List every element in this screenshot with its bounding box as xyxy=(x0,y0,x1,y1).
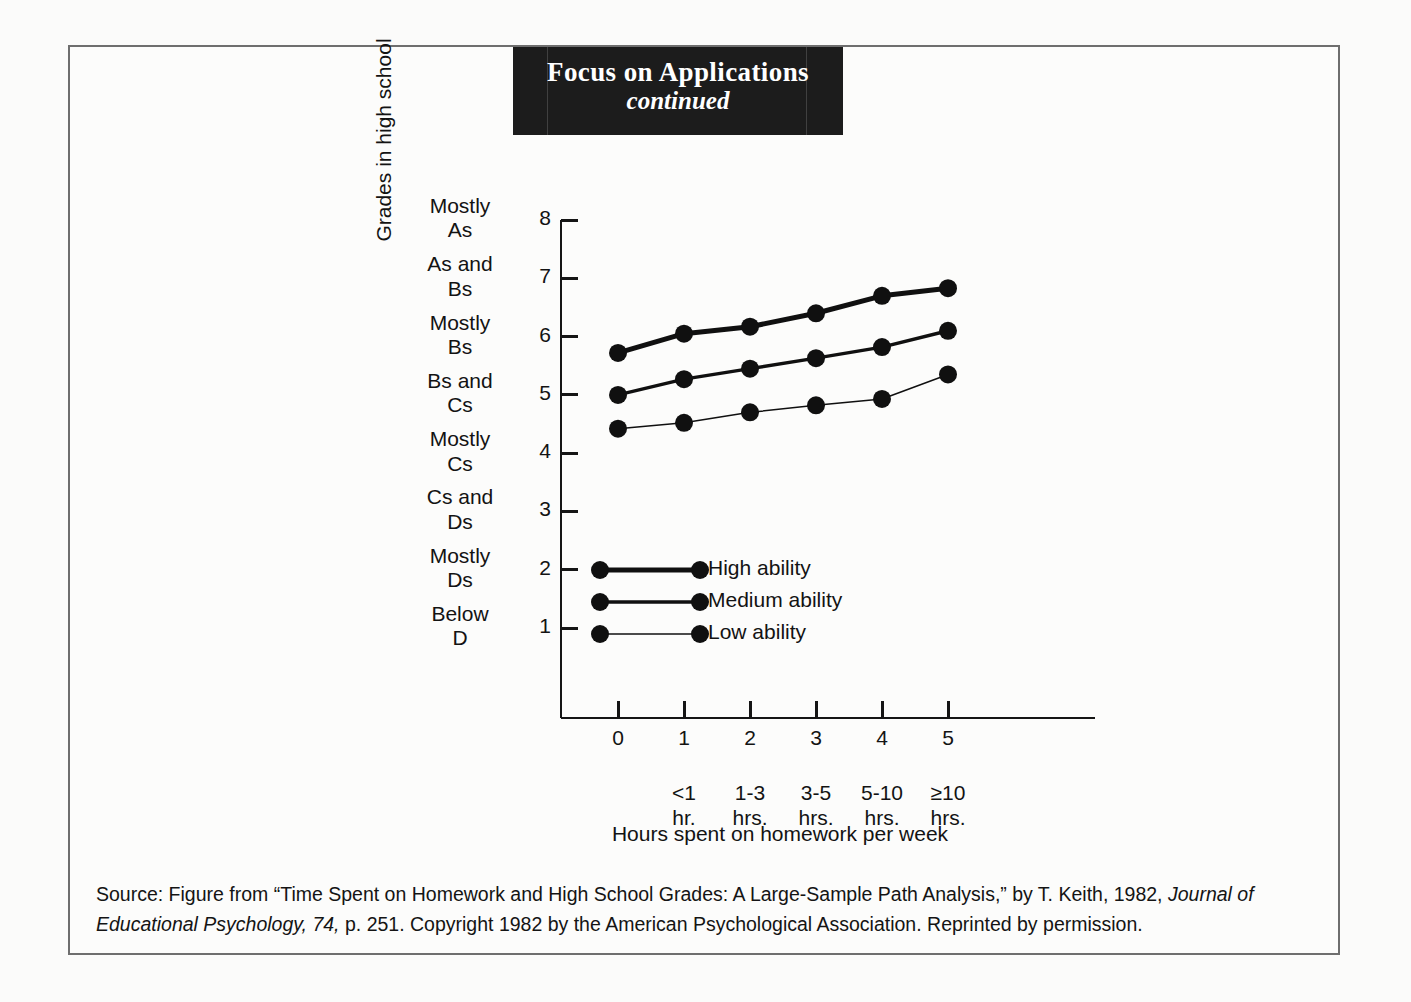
y-category-line2: Ds xyxy=(405,568,515,592)
y-tick-label: 8 xyxy=(525,206,551,230)
x-tick-label: 3 xyxy=(796,726,836,750)
y-category-label: MostlyCs xyxy=(405,427,515,476)
y-category-line1: As and xyxy=(405,252,515,276)
y-category-line2: D xyxy=(405,626,515,650)
y-category-label: Cs andDs xyxy=(405,485,515,534)
y-category-line1: Cs and xyxy=(405,485,515,509)
source-caption: Source: Figure from “Time Spent on Homew… xyxy=(96,880,1311,939)
source-text-part2: p. 251. Copyright 1982 by the American P… xyxy=(340,913,1143,935)
y-tick-label: 4 xyxy=(525,439,551,463)
y-category-line2: Bs xyxy=(405,335,515,359)
legend-label: Medium ability xyxy=(708,588,842,612)
banner-title: Focus on Applications xyxy=(513,47,843,87)
y-category-line2: Bs xyxy=(405,277,515,301)
y-tick-label: 1 xyxy=(525,614,551,638)
y-category-line2: As xyxy=(405,218,515,242)
x-tick-label: 4 xyxy=(862,726,902,750)
y-tick-label: 3 xyxy=(525,497,551,521)
y-category-label: As andBs xyxy=(405,252,515,301)
banner-focus-on-applications: Focus on Applications continued xyxy=(513,47,843,135)
y-category-line1: Mostly xyxy=(405,544,515,568)
x-category-line2: hrs. xyxy=(908,805,988,830)
y-category-line1: Bs and xyxy=(405,369,515,393)
source-text-part1: Source: Figure from “Time Spent on Homew… xyxy=(96,883,1168,905)
y-category-label: MostlyDs xyxy=(405,544,515,593)
x-tick-label: 1 xyxy=(664,726,704,750)
figure-page: Focus on Applications continued Grades i… xyxy=(0,0,1411,1002)
banner-rule-right xyxy=(806,47,807,135)
y-category-line1: Mostly xyxy=(405,311,515,335)
legend-label: Low ability xyxy=(708,620,806,644)
y-category-line1: Mostly xyxy=(405,194,515,218)
y-tick-label: 7 xyxy=(525,264,551,288)
x-category-label: ≥10hrs. xyxy=(908,780,988,830)
x-tick-label: 5 xyxy=(928,726,968,750)
y-category-label: BelowD xyxy=(405,602,515,651)
y-category-line1: Below xyxy=(405,602,515,626)
y-tick-label: 5 xyxy=(525,381,551,405)
y-category-label: MostlyAs xyxy=(405,194,515,243)
x-category-line1: ≥10 xyxy=(908,780,988,805)
y-category-label: MostlyBs xyxy=(405,311,515,360)
y-tick-label: 6 xyxy=(525,323,551,347)
y-axis-title: Grades in high school xyxy=(372,0,396,290)
y-category-line2: Cs xyxy=(405,393,515,417)
x-tick-label: 2 xyxy=(730,726,770,750)
y-tick-label: 2 xyxy=(525,556,551,580)
x-tick-label: 0 xyxy=(598,726,638,750)
banner-subtitle: continued xyxy=(513,87,843,116)
y-category-line2: Ds xyxy=(405,510,515,534)
legend-label: High ability xyxy=(708,556,811,580)
y-category-line2: Cs xyxy=(405,452,515,476)
y-category-line1: Mostly xyxy=(405,427,515,451)
y-category-label: Bs andCs xyxy=(405,369,515,418)
banner-rule-left xyxy=(547,47,548,135)
